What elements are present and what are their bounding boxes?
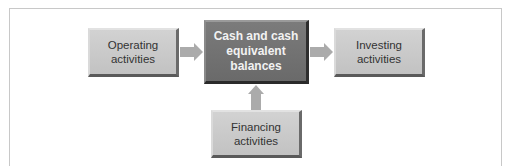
arrow-cash-to-investing-shaft [310, 47, 325, 57]
node-investing-activities: Investing activities [334, 28, 425, 77]
arrow-right-icon [194, 43, 203, 61]
node-cash-balances: Cash and cash equivalent balances [204, 20, 309, 84]
arrow-financing-to-cash-shaft [251, 94, 261, 110]
node-label: Cash and cash equivalent balances [212, 29, 300, 74]
node-financing-activities: Financing activities [211, 110, 302, 158]
node-label: Operating activities [90, 38, 176, 66]
node-label: Financing activities [213, 120, 299, 148]
arrow-up-icon [248, 85, 264, 94]
arrow-operating-to-cash-shaft [180, 47, 195, 57]
node-label: Investing activities [336, 38, 422, 66]
node-operating-activities: Operating activities [88, 28, 179, 77]
arrow-right-icon [324, 43, 333, 61]
